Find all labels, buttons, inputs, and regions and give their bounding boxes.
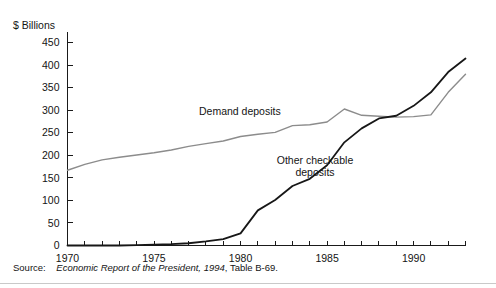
- series-line-demand-deposits: [68, 74, 466, 170]
- y-tick-label: 350: [42, 81, 60, 93]
- y-tick-label: 100: [42, 194, 60, 206]
- series-label-other-checkable-deposits-line1: Other checkable: [277, 154, 354, 166]
- series-label-other-checkable-deposits-line2: deposits: [295, 166, 334, 178]
- series-label-demand-deposits: Demand deposits: [199, 105, 281, 117]
- y-tick-label: 200: [42, 149, 60, 161]
- y-tick-label: 300: [42, 104, 60, 116]
- source-prefix: Source:: [13, 262, 46, 273]
- x-tick-label: 1985: [315, 252, 339, 264]
- y-axis-tick-labels: 050100150200250300350400450: [42, 36, 60, 251]
- line-chart: 050100150200250300350400450 197019751980…: [0, 0, 496, 288]
- chart-series: [68, 59, 466, 246]
- source-citation: Economic Report of the President, 1994: [56, 262, 224, 273]
- x-tick-label: 1990: [402, 252, 426, 264]
- y-tick-label: 50: [48, 217, 60, 229]
- y-tick-label: 450: [42, 36, 60, 48]
- chart-ticks: [68, 43, 466, 246]
- y-tick-label: 250: [42, 126, 60, 138]
- chart-axes: [68, 32, 466, 246]
- source-note: Source: Economic Report of the President…: [13, 262, 278, 273]
- y-axis-title: $ Billions: [13, 19, 55, 31]
- source-table-ref: , Table B-69.: [225, 262, 278, 273]
- y-tick-label: 0: [54, 239, 60, 251]
- bottom-divider: [0, 283, 496, 284]
- y-tick-label: 150: [42, 172, 60, 184]
- y-tick-label: 400: [42, 59, 60, 71]
- chart-figure: 050100150200250300350400450 197019751980…: [0, 0, 496, 288]
- series-line-other-checkable-deposits: [68, 59, 466, 246]
